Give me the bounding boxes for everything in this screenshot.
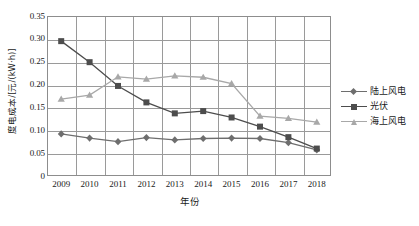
x-axis-tick-label: 2018 — [300, 179, 334, 189]
data-point-marker — [285, 134, 291, 140]
line-chart: 00.050.100.150.200.250.300.35 2009201020… — [0, 0, 419, 226]
data-point-marker — [143, 99, 149, 105]
data-point-marker — [143, 134, 150, 141]
legend-item-3[interactable]: 海上风电 — [341, 114, 419, 129]
legend: 陆上风电光伏海上风电 — [341, 84, 419, 129]
data-point-marker — [257, 124, 263, 130]
y-axis-tick-label: 0.35 — [5, 12, 45, 21]
series-line — [61, 41, 317, 148]
y-axis-title: 度电成本/[元/(kW·h)] — [7, 21, 17, 161]
data-point-marker — [87, 59, 93, 65]
legend-item-2[interactable]: 光伏 — [341, 99, 419, 114]
legend-item-1[interactable]: 陆上风电 — [341, 84, 419, 99]
data-point-marker — [314, 146, 320, 152]
data-point-marker — [58, 130, 65, 137]
legend-label: 光伏 — [370, 101, 388, 112]
legend-swatch-triangle-icon — [341, 116, 367, 128]
data-point-marker — [86, 134, 93, 141]
data-point-marker — [200, 108, 206, 114]
data-point-marker — [115, 138, 122, 145]
series-triangle — [58, 72, 321, 124]
series-line — [61, 134, 317, 150]
series-line — [61, 76, 317, 122]
data-point-marker — [114, 73, 121, 79]
data-point-marker — [171, 136, 178, 143]
data-point-marker — [115, 83, 121, 89]
legend-swatch-square-icon — [341, 101, 367, 113]
data-point-marker — [257, 135, 264, 142]
legend-swatch-diamond-icon — [341, 86, 367, 98]
series-layer — [47, 16, 331, 176]
y-axis-tick-label: 0 — [5, 172, 45, 181]
data-point-marker — [172, 110, 178, 116]
data-point-marker — [200, 135, 207, 142]
data-point-marker — [86, 91, 93, 97]
data-point-marker — [58, 38, 64, 44]
series-square — [58, 38, 320, 151]
legend-label: 陆上风电 — [370, 86, 406, 97]
x-axis-title: 年份 — [0, 194, 380, 208]
legend-label: 海上风电 — [370, 116, 406, 127]
data-point-marker — [228, 134, 235, 141]
data-point-marker — [229, 114, 235, 120]
